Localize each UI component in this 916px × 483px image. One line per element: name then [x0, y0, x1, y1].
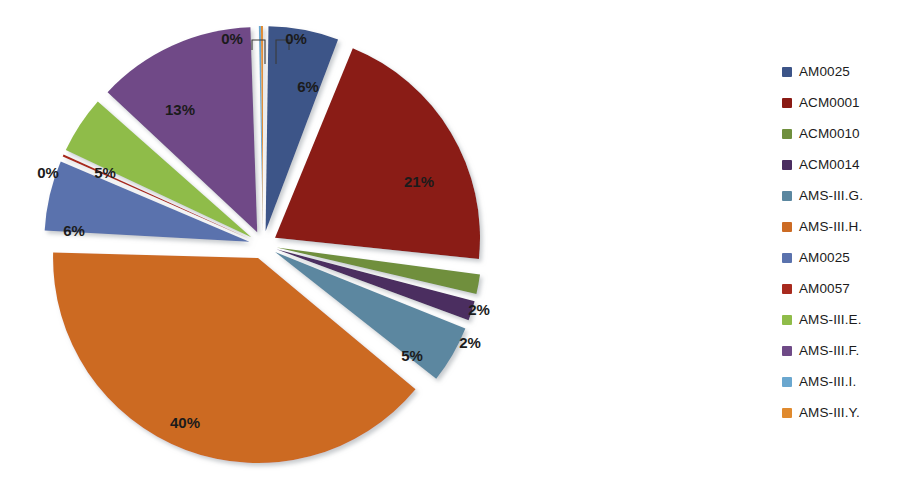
legend-swatch-icon	[782, 191, 792, 201]
legend-item[interactable]: AMS-III.G.	[782, 180, 916, 211]
legend-item[interactable]: AMS-III.E.	[782, 304, 916, 335]
legend-swatch-icon	[782, 129, 792, 139]
legend-item-label: AMS-III.F.	[799, 343, 859, 358]
legend-item[interactable]: AMS-III.F.	[782, 335, 916, 366]
pie-plot-area: 6% 21% 2% 2% 5% 40% 6% 0% 5% 13% 0% 0%	[0, 0, 760, 483]
legend-swatch-icon	[782, 346, 792, 356]
legend-swatch-icon	[782, 377, 792, 387]
pie-slices	[45, 26, 480, 463]
legend-swatch-icon	[782, 160, 792, 170]
legend-item-label: AMS-III.Y.	[799, 405, 860, 420]
slice-label-am0057: 0%	[37, 164, 59, 181]
legend-item-label: AMS-III.E.	[799, 312, 862, 327]
legend-swatch-icon	[782, 98, 792, 108]
legend-item-label: AM0057	[799, 281, 850, 296]
slice-label-am0025-2: 6%	[63, 222, 85, 239]
legend-item-label: ACM0001	[799, 95, 860, 110]
legend-item-label: ACM0014	[799, 157, 860, 172]
legend-item[interactable]: ACM0014	[782, 149, 916, 180]
legend-item[interactable]: AMS-III.Y.	[782, 397, 916, 428]
legend-item-label: AM0025	[799, 64, 850, 79]
legend-item-label: AMS-III.G.	[799, 188, 863, 203]
legend-item[interactable]: AM0025	[782, 56, 916, 87]
slice-label-acm0001: 21%	[404, 173, 434, 190]
legend-swatch-icon	[782, 222, 792, 232]
slice-label-ams-iii-f: 13%	[165, 101, 195, 118]
pie-svg: 6% 21% 2% 2% 5% 40% 6% 0% 5% 13% 0% 0%	[0, 0, 760, 483]
legend-swatch-icon	[782, 67, 792, 77]
pie-chart-figure: 6% 21% 2% 2% 5% 40% 6% 0% 5% 13% 0% 0% A…	[0, 0, 916, 483]
slice-label-ams-iii-e: 5%	[94, 164, 116, 181]
legend-swatch-icon	[782, 315, 792, 325]
slice-label-ams-iii-y: 0%	[285, 30, 307, 47]
legend-item-label: AMS-III.H.	[799, 219, 862, 234]
legend-swatch-icon	[782, 408, 792, 418]
chart-legend: AM0025ACM0001ACM0010ACM0014AMS-III.G.AMS…	[782, 56, 916, 428]
legend-item-label: AM0025	[799, 250, 850, 265]
legend-item[interactable]: AMS-III.H.	[782, 211, 916, 242]
legend-item-label: AMS-III.I.	[799, 374, 856, 389]
leader-line-ams-iii-i	[252, 40, 265, 64]
slice-label-am0025-1: 6%	[297, 78, 319, 95]
legend-item[interactable]: ACM0010	[782, 118, 916, 149]
legend-item[interactable]: AM0057	[782, 273, 916, 304]
legend-item-label: ACM0010	[799, 126, 860, 141]
pie-slice[interactable]	[53, 253, 415, 464]
legend-item[interactable]: AM0025	[782, 242, 916, 273]
slice-label-ams-iii-h: 40%	[170, 414, 200, 431]
slice-label-ams-iii-g: 5%	[401, 347, 423, 364]
legend-item[interactable]: ACM0001	[782, 87, 916, 118]
legend-swatch-icon	[782, 253, 792, 263]
legend-item[interactable]: AMS-III.I.	[782, 366, 916, 397]
slice-label-acm0014: 2%	[459, 334, 481, 351]
slice-label-ams-iii-i: 0%	[221, 30, 243, 47]
slice-label-acm0010: 2%	[468, 301, 490, 318]
legend-swatch-icon	[782, 284, 792, 294]
